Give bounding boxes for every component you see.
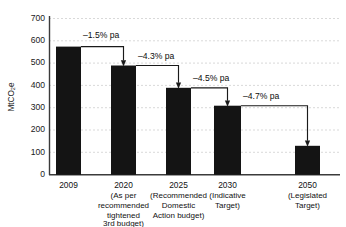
connector-2020-2025	[136, 66, 179, 83]
x-label-2050-line2: Target)	[295, 201, 320, 210]
x-label-2030-year: 2030	[218, 180, 237, 190]
y-tick-300: 300	[31, 102, 46, 112]
bar-2030	[214, 106, 241, 175]
connector-2009-2020	[81, 47, 124, 61]
annotation-2030-2050: –4.7% pa	[243, 91, 280, 101]
y-axis: 700 600 500 400 300 200 100 0 MtCO₂e	[7, 13, 50, 179]
y-tick-200: 200	[31, 124, 46, 134]
bar-2025	[166, 88, 191, 175]
x-label-2020-line1: (As per	[111, 191, 137, 200]
x-label-2020-year: 2020	[114, 180, 133, 190]
x-label-2009-year: 2009	[59, 180, 78, 190]
emissions-bar-chart: 700 600 500 400 300 200 100 0 MtCO₂e	[0, 0, 346, 227]
x-tick-labels: 2009 2020 (As per recommended tightened …	[59, 180, 327, 227]
x-label-2050-year: 2050	[298, 180, 317, 190]
x-label-2025-line3: Action budget)	[153, 211, 205, 220]
connector-2030-2050	[241, 106, 308, 141]
x-label-2050-line1: (Legislated	[288, 191, 327, 200]
y-tick-500: 500	[31, 57, 46, 67]
y-tick-700: 700	[31, 13, 46, 23]
x-label-2025-line2: Domestic	[162, 201, 195, 210]
bar-2009	[56, 47, 81, 175]
annotation-2020-2025: –4.3% pa	[138, 51, 175, 61]
bar-2020	[111, 66, 136, 175]
x-label-2025-year: 2025	[169, 180, 188, 190]
bar-2050	[295, 146, 320, 175]
y-tick-100: 100	[31, 147, 46, 157]
y-tick-400: 400	[31, 80, 46, 90]
chart-canvas: 700 600 500 400 300 200 100 0 MtCO₂e	[0, 0, 346, 227]
x-label-2025-line1: (Recommended	[150, 191, 207, 200]
x-label-2020: 2020 (As per recommended tightened 3rd b…	[98, 180, 149, 227]
y-tick-0: 0	[40, 169, 45, 179]
y-tick-600: 600	[31, 35, 46, 45]
x-label-2025: 2025 (Recommended Domestic Action budget…	[150, 180, 207, 220]
connector-2025-2030	[191, 88, 228, 101]
x-label-2030: 2030 (Indicative Target)	[209, 180, 246, 210]
x-label-2030-line2: Target)	[215, 201, 240, 210]
annotation-2025-2030: –4.5% pa	[193, 73, 230, 83]
bars	[56, 47, 320, 175]
x-label-2050: 2050 (Legislated Target)	[288, 180, 327, 210]
y-axis-title: MtCO₂e	[7, 82, 16, 112]
x-label-2020-line2: recommended	[98, 201, 149, 210]
annotation-2009-2020: –1.5% pa	[83, 30, 120, 40]
x-label-2009: 2009	[59, 180, 78, 190]
x-label-2020-line4: 3rd budget)	[103, 219, 144, 227]
x-label-2030-line1: (Indicative	[209, 191, 246, 200]
